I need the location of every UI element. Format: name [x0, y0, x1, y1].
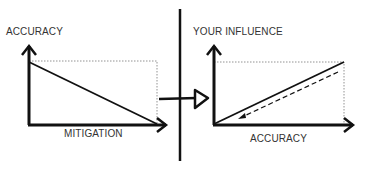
left-chart: [22, 46, 166, 132]
dashed-arrowhead-icon: [238, 113, 246, 119]
left-trend-line: [29, 62, 157, 124]
right-x-axis-label: ACCURACY: [250, 133, 307, 144]
right-trend-line: [214, 62, 344, 124]
connector-arrowhead-icon: [195, 90, 208, 108]
left-x-axis-label: MITIGATION: [64, 128, 123, 139]
left-y-axis-label: ACCURACY: [6, 26, 63, 37]
right-y-axis-label: YOUR INFLUENCE: [193, 26, 283, 37]
right-chart: [207, 46, 353, 132]
right-dashed-arrow: [242, 72, 338, 117]
connector-arrow: [159, 90, 208, 108]
